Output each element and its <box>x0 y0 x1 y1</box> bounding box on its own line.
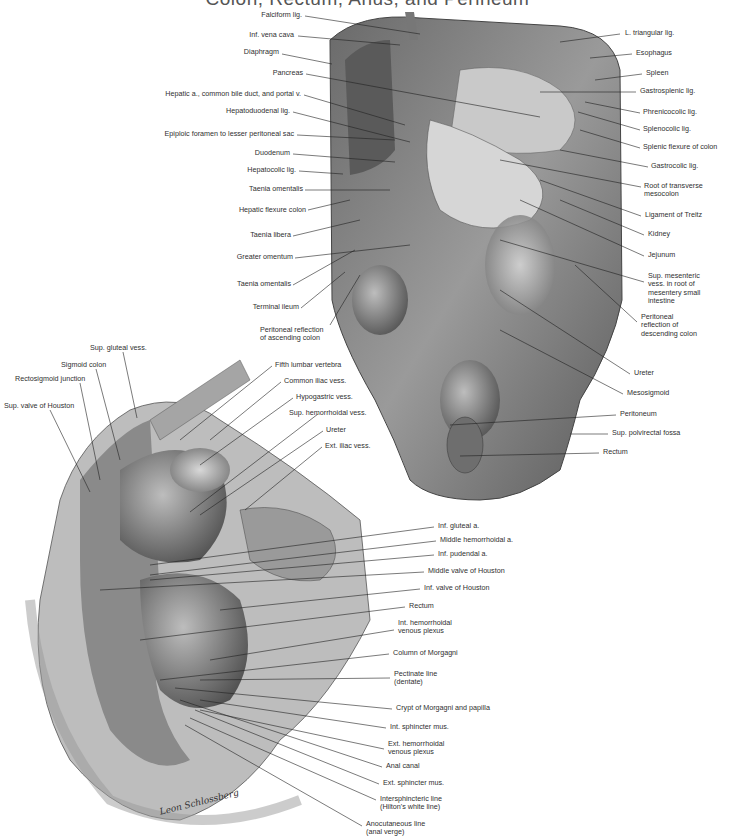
label-hepatocolic-lig: Hepatocolic lig. <box>247 166 296 174</box>
label-duodenum: Duodenum <box>255 149 290 157</box>
label-common-iliac-vess: Common iliac vess. <box>284 377 346 385</box>
label-sup-hemorrhoidal-vess: Sup. hemorrhoidal vess. <box>289 409 367 417</box>
anatomical-illustration: Leon Schlossberg <box>0 0 735 840</box>
label-column-of-morgagni: Column of Morgagni <box>393 649 458 657</box>
label-diaphragm: Diaphragm <box>244 48 279 56</box>
label-sup-gluteal-vess: Sup. gluteal vess. <box>90 344 147 352</box>
label-epiploic-foramen: Epiploic foramen to lesser peritoneal sa… <box>165 130 294 138</box>
label-taenia-omentalis-upper: Taenia omentalis <box>249 185 303 193</box>
label-anal-canal: Anal canal <box>386 762 420 770</box>
label-fifth-lumbar-vertebra: Fifth lumbar vertebra <box>275 361 341 369</box>
label-ligament-of-treitz: Ligament of Treitz <box>645 211 702 219</box>
abdominal-cavity-drawing <box>330 12 622 500</box>
label-l-triangular-lig: L. triangular lig. <box>625 29 674 37</box>
label-spleen: Spleen <box>646 69 668 77</box>
label-sigmoid-colon: Sigmoid colon <box>61 361 106 369</box>
label-inf-vena-cava: Inf. vena cava <box>249 31 294 39</box>
label-splenocolic-lig: Splenocolic lig. <box>643 125 691 133</box>
label-inf-pudendal-a: Inf. pudendal a. <box>438 550 488 558</box>
label-ureter-lower: Ureter <box>326 426 346 434</box>
label-pectinate-line: Pectinate line (dentate) <box>394 670 437 687</box>
label-sup-polvirectal-fossa: Sup. polvirectal fossa <box>612 429 680 437</box>
label-ext-sphincter-mus: Ext. sphincter mus. <box>383 779 444 787</box>
pelvis-sagittal-drawing <box>30 360 370 820</box>
label-splenic-flexure-colon: Splenic flexure of colon <box>643 143 717 151</box>
label-hepatic-artery-bile-duct-portal-vein: Hepatic a., common bile duct, and portal… <box>165 90 301 98</box>
label-hepatoduodenal-lig: Hepatoduodenal lig. <box>226 107 290 115</box>
label-middle-hemorrhoidal-a: Middle hemorrhoidal a. <box>440 536 513 544</box>
label-peritoneal-reflection-ascending-colon: Peritoneal reflection of ascending colon <box>260 326 324 343</box>
label-int-sphincter-mus: Int. sphincter mus. <box>390 723 449 731</box>
label-inf-gluteal-a: Inf. gluteal a. <box>438 522 479 530</box>
label-rectum-lower: Rectum <box>409 602 434 610</box>
label-ext-iliac-vess: Ext. iliac vess. <box>325 442 371 450</box>
label-terminal-ileum: Terminal ileum <box>253 303 299 311</box>
label-taenia-libera: Taenia libera <box>250 231 291 239</box>
label-falciform-lig: Falciform lig. <box>261 11 302 19</box>
label-greater-omentum: Greater omentum <box>237 253 293 261</box>
label-hepatic-flexure-colon: Hepatic flexure colon <box>239 206 306 214</box>
label-mesosigmoid: Mesosigmoid <box>627 389 669 397</box>
label-rectum-upper: Rectum <box>603 448 628 456</box>
label-taenia-omentalis-lower: Taenia omentalis <box>237 280 291 288</box>
label-int-hemorrhoidal-venous-plexus: Int. hemorrhoidal venous plexus <box>398 619 452 636</box>
label-peritoneal-reflection-descending-colon: Peritoneal reflection of descending colo… <box>641 313 697 338</box>
label-middle-valve-houston: Middle valve of Houston <box>428 567 505 575</box>
label-ureter-upper: Ureter <box>634 369 654 377</box>
label-intersphincteric-line: Intersphincteric line (Hilton's white li… <box>380 795 442 812</box>
label-jejunum: Jejunum <box>648 251 675 259</box>
label-peritoneum: Peritoneum <box>620 410 657 418</box>
label-anocutaneous-line: Anocutaneous line (anal verge) <box>366 820 425 837</box>
label-crypt-of-morgagni: Crypt of Morgagni and papilla <box>396 704 490 712</box>
label-sup-mesenteric-vess: Sup. mesenteric vess. in root of mesente… <box>648 272 700 306</box>
label-gastrosplenic-lig: Gastrosplenic lig. <box>640 87 695 95</box>
label-ext-hemorrhoidal-venous-plexus: Ext. hemorrhoidal venous plexus <box>388 740 444 757</box>
label-sup-valve-houston: Sup. valve of Houston <box>4 402 74 410</box>
label-gastrocolic-lig: Gastrocolic lig. <box>651 162 698 170</box>
label-esophagus: Esophagus <box>636 49 672 57</box>
label-rectosigmoid-junction: Rectosigmoid junction <box>15 375 85 383</box>
label-hypogastric-vess: Hypogastric vess. <box>296 393 353 401</box>
label-kidney: Kidney <box>648 230 670 238</box>
label-phrenicocolic-lig: Phrenicocolic lig. <box>643 108 697 116</box>
label-inf-valve-houston: Inf. valve of Houston <box>424 584 490 592</box>
label-root-transverse-mesocolon: Root of transverse mesocolon <box>644 182 703 199</box>
label-pancreas: Pancreas <box>273 69 303 77</box>
